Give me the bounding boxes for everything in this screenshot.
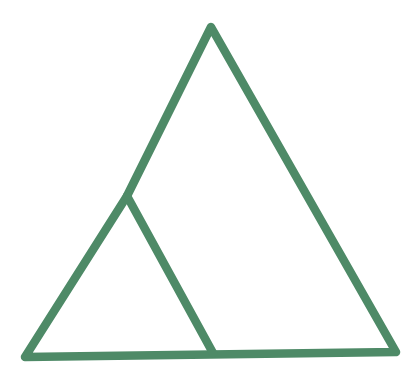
inner-cevian-line — [127, 196, 213, 353]
outer-triangle — [25, 27, 396, 357]
figure-canvas — [0, 0, 414, 371]
triangle-figure — [0, 0, 414, 371]
